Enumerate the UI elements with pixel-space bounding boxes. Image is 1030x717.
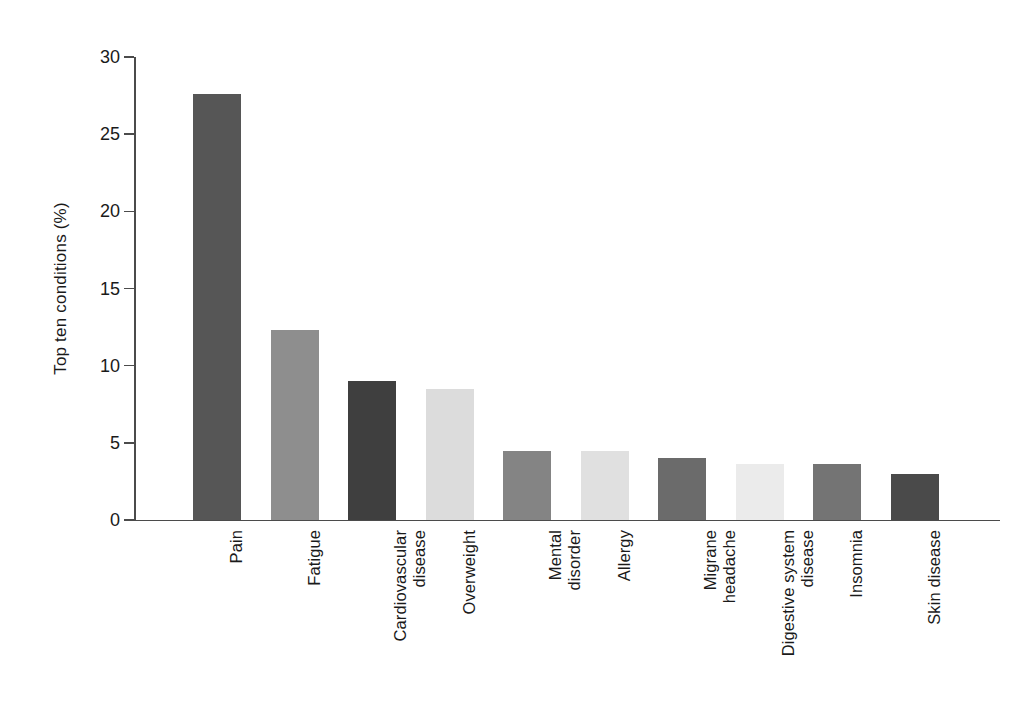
y-axis-tick-mark: [124, 365, 134, 367]
y-axis-tick-mark: [124, 211, 134, 213]
plot-area: [134, 57, 1000, 520]
x-axis-tick-label: Mentaldisorder: [546, 530, 584, 680]
x-axis-tick-label: Insomnia: [847, 530, 867, 680]
x-axis-tick-label-line: Pain: [227, 530, 246, 680]
x-axis-tick-label: Allergy: [615, 530, 635, 680]
x-axis-tick-label: Digestive systemdisease: [779, 530, 817, 680]
bar: [348, 381, 396, 520]
x-axis-tick-label-line: Insomnia: [847, 530, 866, 680]
x-axis-tick-label-line: Overweight: [460, 530, 479, 680]
y-axis-tick-label: 0: [80, 511, 120, 529]
x-axis-tick-label-line: Migrane: [701, 530, 720, 680]
x-axis-tick-label-line: headache: [720, 530, 739, 680]
x-axis-tick-label: Overweight: [460, 530, 480, 680]
bar-chart: Top ten conditions (%) 051015202530 Pain…: [0, 0, 1030, 717]
x-axis-tick-label-line: Cardiovascular: [391, 530, 410, 680]
bar: [581, 451, 629, 520]
x-axis-tick-label: Pain: [227, 530, 247, 680]
bar: [193, 94, 241, 520]
bar: [736, 464, 784, 520]
x-axis-tick-label: Migraneheadache: [701, 530, 739, 680]
y-axis-tick-label: 20: [80, 202, 120, 220]
y-axis-tick-label: 10: [80, 357, 120, 375]
x-axis-tick-label-line: Skin disease: [925, 530, 944, 680]
x-axis-tick-label-line: Fatigue: [305, 530, 324, 680]
y-axis-tick-label: 25: [80, 125, 120, 143]
bar: [658, 458, 706, 520]
x-axis-tick-label-line: disease: [798, 530, 817, 680]
y-axis-tick-label: 15: [80, 280, 120, 298]
bar: [891, 474, 939, 520]
y-axis-title: Top ten conditions (%): [46, 57, 76, 520]
y-axis-tick-mark: [124, 133, 134, 135]
y-axis-tick-label: 30: [80, 48, 120, 66]
y-axis-tick-mark: [124, 56, 134, 58]
x-axis-tick-label: Cardiovasculardisease: [391, 530, 429, 680]
x-axis-tick-label: Fatigue: [305, 530, 325, 680]
x-axis-tick-label-line: disorder: [565, 530, 584, 680]
y-axis-tick-mark: [124, 442, 134, 444]
x-axis-tick-label-line: disease: [410, 530, 429, 680]
bar: [426, 389, 474, 520]
y-axis-tick-label: 5: [80, 434, 120, 452]
y-axis-tick-mark: [124, 288, 134, 290]
bar: [271, 330, 319, 520]
x-axis-tick-label-line: Mental: [546, 530, 565, 680]
x-axis-tick-label-line: Digestive system: [779, 530, 798, 680]
y-axis-tick-mark: [124, 519, 134, 521]
x-axis-tick-label-line: Allergy: [615, 530, 634, 680]
x-axis-tick-label: Skin disease: [925, 530, 945, 680]
bar: [503, 451, 551, 520]
bar: [813, 464, 861, 520]
